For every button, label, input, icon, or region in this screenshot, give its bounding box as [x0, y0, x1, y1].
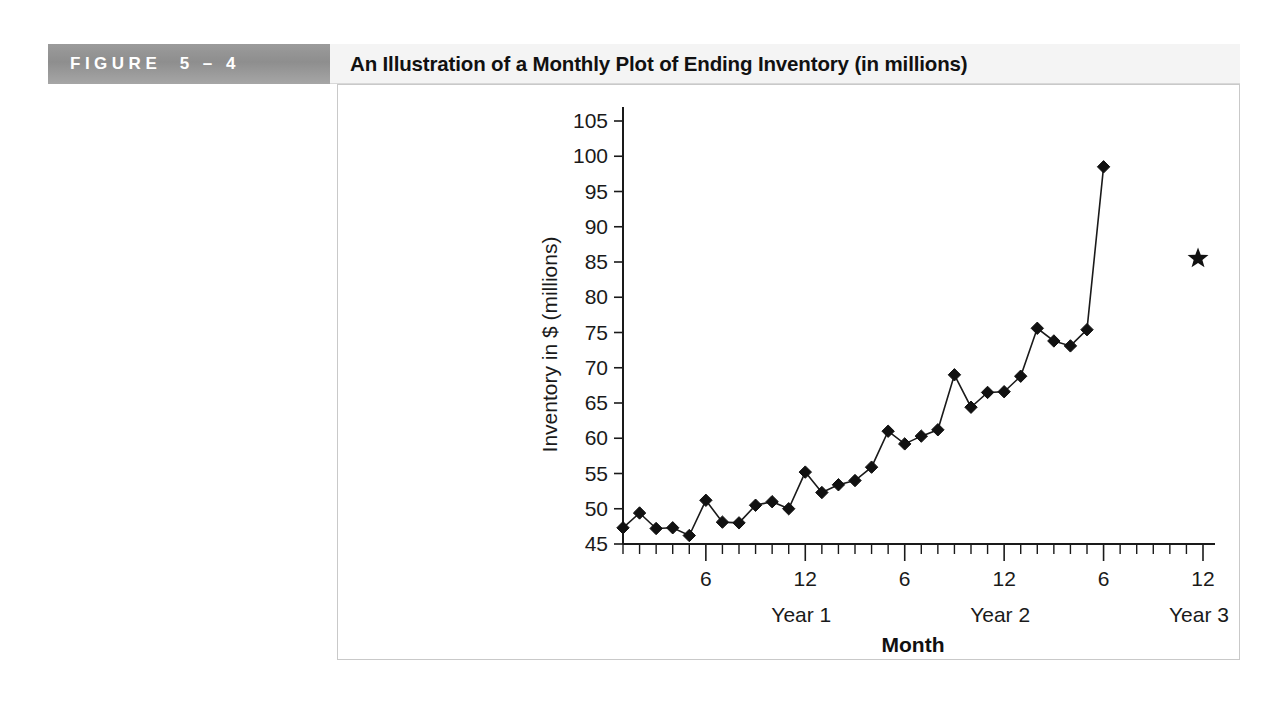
data-point-marker [915, 430, 927, 442]
y-tick-label: 50 [585, 497, 608, 520]
data-point-marker [667, 522, 679, 534]
x-tick-label: 12 [1191, 567, 1214, 590]
y-tick-label: 95 [585, 180, 608, 203]
figure-title: An Illustration of a Monthly Plot of End… [350, 52, 967, 76]
y-tick-label: 45 [585, 532, 608, 555]
y-tick-label: 60 [585, 426, 608, 449]
data-point-marker [899, 438, 911, 450]
x-axis: 612612612 [623, 544, 1215, 590]
axis-labels: Year 1Year 2Year 3MonthInventory in $ (m… [538, 237, 1229, 656]
y-axis-title: Inventory in $ (millions) [538, 237, 561, 453]
x-axis-year-label: Year 2 [970, 603, 1030, 626]
y-tick-label: 70 [585, 356, 608, 379]
x-tick-label: 12 [992, 567, 1015, 590]
figure-number-tab: FIGURE 5 – 4 [48, 44, 330, 84]
data-point-marker [766, 496, 778, 508]
figure-title-bar: An Illustration of a Monthly Plot of End… [330, 44, 1240, 84]
y-tick-label: 80 [585, 285, 608, 308]
data-series-ending-inventory [617, 161, 1110, 542]
y-tick-label: 105 [573, 109, 608, 132]
y-tick-label: 65 [585, 391, 608, 414]
figure-number-label: FIGURE 5 – 4 [70, 54, 240, 74]
y-tick-label: 100 [573, 144, 608, 167]
data-point-marker [683, 529, 695, 541]
y-tick-label: 75 [585, 321, 608, 344]
y-tick-label: 85 [585, 250, 608, 273]
figure-header: FIGURE 5 – 4 An Illustration of a Monthl… [48, 44, 1240, 84]
data-point-marker [882, 425, 894, 437]
x-tick-label: 6 [700, 567, 712, 590]
x-tick-label: 6 [1098, 567, 1110, 590]
figure-plot-frame: 4550556065707580859095100105 612612612 Y… [337, 84, 1240, 660]
y-axis: 4550556065707580859095100105 [573, 107, 623, 555]
data-point-marker [1097, 161, 1109, 173]
chart-annotations [1188, 247, 1209, 267]
chart-area: 4550556065707580859095100105 612612612 Y… [338, 85, 1241, 661]
data-point-marker [932, 424, 944, 436]
data-point-marker [700, 494, 712, 506]
inventory-line-chart: 4550556065707580859095100105 612612612 Y… [338, 85, 1241, 661]
data-point-marker [1031, 322, 1043, 334]
x-axis-year-label: Year 1 [771, 603, 831, 626]
data-point-marker [716, 516, 728, 528]
y-tick-label: 55 [585, 462, 608, 485]
data-point-marker [832, 479, 844, 491]
y-tick-label: 90 [585, 215, 608, 238]
data-point-marker [948, 369, 960, 381]
forecast-star-marker [1188, 247, 1209, 267]
x-tick-label: 6 [899, 567, 911, 590]
x-axis-year-label: Year 3 [1169, 603, 1229, 626]
x-axis-title: Month [882, 633, 945, 656]
data-point-marker [1048, 335, 1060, 347]
x-tick-label: 12 [794, 567, 817, 590]
data-point-marker [783, 503, 795, 515]
